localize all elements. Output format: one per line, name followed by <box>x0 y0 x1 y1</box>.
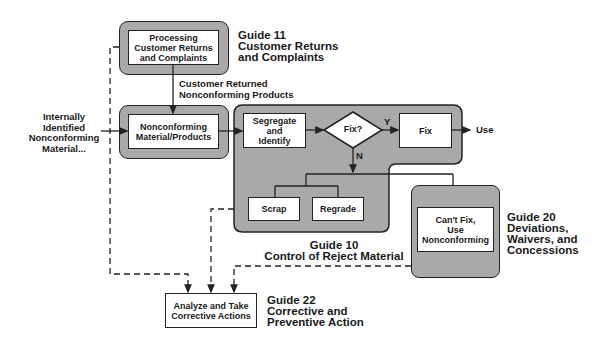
customer-returned-label: Customer Returned Nonconforming Products <box>179 79 294 100</box>
use-label: Use <box>476 125 493 136</box>
nonconforming-material-box: Nonconforming Material/Products <box>128 114 219 149</box>
fix-decision-label: Fix? <box>333 124 373 134</box>
yes-label: Y <box>384 117 390 128</box>
no-label: N <box>356 151 363 162</box>
guide20-caption: Guide 20 Deviations, Waivers, and Conces… <box>507 212 579 256</box>
guide22-caption: Guide 22 Corrective and Preventive Actio… <box>267 295 364 328</box>
guide11-caption: Guide 11 Customer Returns and Complaints <box>238 30 338 63</box>
fix-box: Fix <box>399 113 452 148</box>
segregate-identify-box: Segregate and Identify <box>243 113 306 148</box>
regrade-box: Regrade <box>312 197 364 221</box>
guide10-caption: Guide 10 Control of Reject Material <box>234 240 434 262</box>
scrap-box: Scrap <box>248 197 300 221</box>
analyze-corrective-box: Analyze and Take Corrective Actions <box>165 293 257 328</box>
internal-input-label: Internally Identified Nonconforming Mate… <box>26 112 102 154</box>
processing-customer-returns-box: Processing Customer Returns and Complain… <box>128 30 219 65</box>
